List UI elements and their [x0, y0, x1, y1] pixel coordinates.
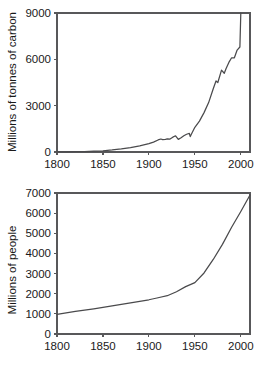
y-tick-label: 2000 [25, 288, 51, 300]
x-tick-label: 1850 [90, 158, 116, 170]
world-population-chart: 01000200030004000500060007000 1800185019… [0, 180, 280, 365]
y-tick-label: 3000 [25, 100, 51, 112]
figure-root: 0300060009000 18001850190019502000 Milli… [0, 0, 280, 365]
x-tick-label: 1850 [90, 340, 116, 352]
y-tick-label: 0 [45, 146, 51, 158]
carbon-plot-frame [57, 13, 250, 152]
population-y-axis-title: Millions of people [6, 226, 18, 315]
chart-panel-carbon: 0300060009000 18001850190019502000 Milli… [0, 0, 280, 180]
population-x-tick-labels: 18001850190019502000 [44, 340, 253, 352]
x-tick-label: 2000 [228, 158, 254, 170]
y-tick-label: 5000 [25, 227, 51, 239]
x-tick-label: 2000 [228, 340, 254, 352]
population-y-tick-labels: 01000200030004000500060007000 [25, 187, 51, 340]
carbon-y-axis-title: Millions of tonnes of carbon [6, 12, 18, 152]
y-tick-label: 3000 [25, 268, 51, 280]
x-tick-label: 1800 [44, 158, 70, 170]
x-tick-label: 1950 [182, 340, 208, 352]
y-tick-label: 6000 [25, 207, 51, 219]
y-tick-label: 7000 [25, 187, 51, 199]
population-plot-frame [57, 193, 250, 334]
y-tick-label: 4000 [25, 247, 51, 259]
y-tick-label: 1000 [25, 308, 51, 320]
y-tick-label: 0 [45, 328, 51, 340]
carbon-y-tick-labels: 0300060009000 [25, 7, 51, 158]
carbon-x-tick-labels: 18001850190019502000 [44, 158, 253, 170]
x-tick-label: 1900 [136, 158, 162, 170]
x-tick-label: 1950 [182, 158, 208, 170]
y-tick-label: 9000 [25, 7, 51, 19]
carbon-emissions-chart: 0300060009000 18001850190019502000 Milli… [0, 0, 280, 180]
chart-panel-population: 01000200030004000500060007000 1800185019… [0, 180, 280, 365]
carbon-emissions-line [57, 13, 241, 152]
x-tick-label: 1800 [44, 340, 70, 352]
population-line [57, 195, 250, 314]
y-tick-label: 6000 [25, 53, 51, 65]
x-tick-label: 1900 [136, 340, 162, 352]
